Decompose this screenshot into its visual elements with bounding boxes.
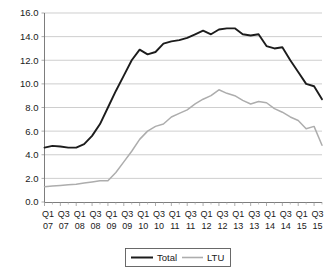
- x-tick-year-label: 08: [91, 221, 101, 231]
- x-axis-quarter-labels: Q1Q3Q1Q3Q1Q3Q1Q3Q1Q3Q1Q3Q1Q3Q1Q3Q1Q3: [42, 209, 324, 219]
- x-tick-year-label: 10: [154, 221, 164, 231]
- y-tick-label: 2.0: [25, 173, 38, 184]
- series-line-ltu: [45, 90, 323, 187]
- x-tick-year-label: 14: [281, 221, 291, 231]
- x-tick-year-label: 11: [186, 221, 195, 231]
- x-tick-quarter-label: Q1: [74, 209, 86, 219]
- y-tick-label: 10.0: [20, 78, 39, 89]
- x-tick-quarter-label: Q1: [137, 209, 149, 219]
- x-tick-year-label: 13: [249, 221, 259, 231]
- legend-label-total: Total: [157, 252, 177, 263]
- y-tick-label: 12.0: [20, 55, 39, 66]
- x-tick-quarter-label: Q1: [201, 209, 213, 219]
- series-line-total: [45, 28, 323, 147]
- x-tick-quarter-label: Q3: [90, 209, 102, 219]
- y-tick-label: 4.0: [25, 149, 38, 160]
- x-tick-year-label: 13: [233, 221, 243, 231]
- x-tick-quarter-label: Q3: [58, 209, 70, 219]
- x-tick-quarter-label: Q1: [296, 209, 308, 219]
- line-chart: 16.014.012.010.08.06.04.02.00.0 Q1Q3Q1Q3…: [0, 0, 333, 275]
- x-tick-year-label: 11: [170, 221, 179, 231]
- x-tick-quarter-label: Q3: [280, 209, 292, 219]
- x-tick-quarter-label: Q3: [153, 209, 165, 219]
- x-tick-quarter-label: Q3: [216, 209, 228, 219]
- x-tick-quarter-label: Q1: [105, 209, 117, 219]
- y-tick-label: 14.0: [20, 31, 39, 42]
- x-tick-year-label: 15: [313, 221, 323, 231]
- x-tick-year-label: 10: [138, 221, 148, 231]
- x-tick-year-label: 12: [202, 221, 212, 231]
- x-tick-year-label: 08: [75, 221, 85, 231]
- x-tick-year-label: 07: [59, 221, 69, 231]
- x-tick-quarter-label: Q1: [169, 209, 181, 219]
- y-tick-label: 6.0: [25, 126, 38, 137]
- x-tick-quarter-label: Q1: [42, 209, 54, 219]
- x-tick-quarter-label: Q1: [264, 209, 276, 219]
- chart-legend: Total LTU: [126, 249, 231, 267]
- legend-label-ltu: LTU: [207, 252, 224, 263]
- y-axis-tick-labels: 16.014.012.010.08.06.04.02.00.0: [20, 7, 39, 207]
- chart-container: 16.014.012.010.08.06.04.02.00.0 Q1Q3Q1Q3…: [0, 0, 333, 275]
- y-tick-label: 0.0: [25, 196, 38, 207]
- x-tick-year-label: 07: [43, 221, 53, 231]
- y-tick-label: 16.0: [20, 7, 39, 18]
- x-tick-year-label: 14: [265, 221, 275, 231]
- x-axis-year-labels: 070708080909101011111212131314141515: [43, 221, 323, 231]
- x-tick-quarter-label: Q3: [312, 209, 324, 219]
- x-tick-year-label: 12: [217, 221, 227, 231]
- x-tick-quarter-label: Q3: [121, 209, 133, 219]
- x-tick-year-label: 09: [122, 221, 132, 231]
- y-tick-label: 8.0: [25, 102, 38, 113]
- x-tick-quarter-label: Q3: [185, 209, 197, 219]
- x-tick-year-label: 15: [297, 221, 307, 231]
- x-tick-quarter-label: Q1: [232, 209, 244, 219]
- x-tick-quarter-label: Q3: [248, 209, 260, 219]
- gridlines-group: [45, 13, 323, 178]
- x-tick-year-label: 09: [106, 221, 116, 231]
